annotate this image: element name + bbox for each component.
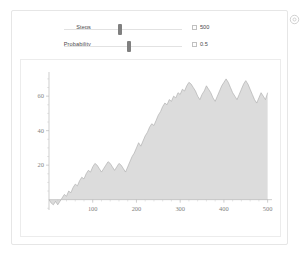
svg-text:200: 200 [132,205,142,212]
slider-track-steps[interactable] [64,29,182,30]
app-root: Steps 500 Probability 0.5 100200300400 [0,0,304,255]
svg-text:300: 300 [175,205,185,212]
svg-text:100: 100 [88,205,98,212]
slider-track-probability[interactable] [64,46,182,47]
slider-thumb-steps[interactable] [118,24,122,35]
value-group-steps: 500 [192,24,209,30]
svg-text:400: 400 [219,205,229,212]
control-value-probability: 0.5 [200,41,208,47]
control-value-steps: 500 [200,24,209,30]
control-row-probability: Probability 0.5 [12,38,289,55]
gear-icon[interactable] [289,11,300,22]
control-row-steps: Steps 500 [12,21,289,38]
stepper-box-icon[interactable] [192,42,197,47]
random-walk-chart: 100200300400500204060 [21,60,280,236]
svg-text:20: 20 [38,161,44,168]
svg-text:500: 500 [263,205,273,212]
stepper-box-icon[interactable] [192,25,197,30]
demo-panel: Steps 500 Probability 0.5 100200300400 [11,10,288,245]
value-group-probability: 0.5 [192,41,208,47]
slider-thumb-probability[interactable] [127,41,131,52]
chart-frame: 100200300400500204060 [20,59,281,237]
svg-text:40: 40 [38,127,44,134]
controls-area: Steps 500 Probability 0.5 [12,21,289,55]
svg-text:60: 60 [38,92,44,99]
